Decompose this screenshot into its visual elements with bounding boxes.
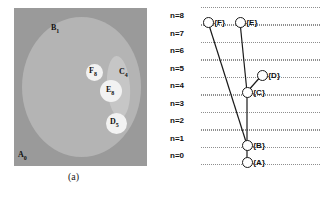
edge-E-C — [240, 22, 247, 92]
panel-b: n=8n=7n=6n=5n=4n=3n=2n=1n=0 {F}{E}{D}{C}… — [161, 0, 322, 201]
tree-node-label-D: {D} — [268, 71, 280, 80]
tree-node-E[interactable] — [235, 17, 246, 28]
region-label-b-sub: 1 — [56, 28, 59, 34]
region-label-e: E8 — [106, 86, 114, 96]
tree-node-F[interactable] — [203, 17, 214, 28]
tree-node-B[interactable] — [242, 140, 253, 151]
region-label-f-sub: 8 — [94, 71, 97, 77]
tree-node-D[interactable] — [257, 70, 268, 81]
tree-node-label-E: {E} — [246, 18, 258, 27]
region-image-a: A0 B1 C4 F8 E8 D5 — [14, 8, 147, 166]
region-label-d-sub: 5 — [116, 122, 119, 128]
region-label-d: D5 — [110, 118, 119, 128]
tree-node-label-C: {C} — [253, 88, 265, 97]
region-label-f: F8 — [89, 67, 97, 77]
tree-node-label-F: {F} — [214, 18, 225, 27]
region-label-a-sub: 0 — [24, 155, 27, 161]
region-label-b: B1 — [51, 24, 59, 34]
panel-a: A0 B1 C4 F8 E8 D5 (a) — [0, 0, 161, 201]
region-label-a: A0 — [18, 151, 27, 161]
tree-node-C[interactable] — [242, 87, 253, 98]
region-label-c: C4 — [119, 68, 128, 78]
tree-edges — [161, 0, 322, 201]
region-label-c-sub: 4 — [125, 72, 128, 78]
edge-F-B — [208, 22, 247, 145]
tree-node-A[interactable] — [242, 157, 253, 168]
panel-a-caption: (a) — [68, 171, 79, 182]
figure-root: A0 B1 C4 F8 E8 D5 (a) n=8n=7n=6n=5n=4n=3… — [0, 0, 322, 201]
tree-node-label-A: {A} — [253, 158, 265, 167]
tree-node-label-B: {B} — [253, 141, 265, 150]
region-label-e-sub: 8 — [111, 90, 114, 96]
